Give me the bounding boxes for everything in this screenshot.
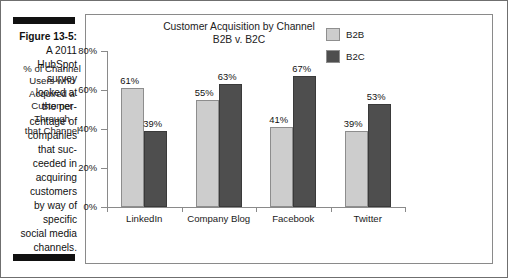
- caption-line: social media: [3, 227, 77, 241]
- bar-value-label: 53%: [367, 91, 386, 102]
- y-axis-tick-label: 0%: [63, 201, 97, 212]
- x-axis-tick: [182, 207, 183, 212]
- bar-group: 55%63%: [196, 51, 242, 207]
- bar-value-label: 61%: [120, 75, 139, 86]
- legend-label: B2B: [346, 29, 364, 40]
- x-axis-category-label: Twitter: [322, 213, 414, 224]
- figure-page: Figure 13-5: A 2011HubSpotsurveylooked a…: [0, 0, 508, 278]
- caption-line: specific: [3, 213, 77, 227]
- plot-area: 61%39%55%63%41%67%39%53%: [107, 51, 405, 207]
- y-axis-tick: [101, 168, 107, 169]
- bar-group: 39%53%: [345, 51, 391, 207]
- bar-value-label: 41%: [269, 114, 288, 125]
- y-axis-tick-label: 60%: [63, 84, 97, 95]
- y-axis-tick-label: 20%: [63, 162, 97, 173]
- y-axis-tick-label: 40%: [63, 123, 97, 134]
- figure-number: Figure 13-5:: [19, 31, 77, 42]
- bar-b2b-facebook[interactable]: [270, 127, 293, 207]
- x-axis-tick: [331, 207, 332, 212]
- x-axis-tick: [405, 207, 406, 212]
- chart-title-block: Customer Acquisition by Channel B2B v. B…: [119, 20, 359, 46]
- caption-line: channels.: [3, 241, 77, 255]
- chart-title: Customer Acquisition by Channel: [119, 20, 359, 33]
- y-axis-tick: [101, 129, 107, 130]
- y-axis-tick-label: 80%: [63, 45, 97, 56]
- bar-b2c-facebook[interactable]: [293, 76, 316, 207]
- bar-value-label: 63%: [218, 71, 237, 82]
- bar-b2b-twitter[interactable]: [345, 131, 368, 207]
- figure-caption-column: Figure 13-5: A 2011HubSpotsurveylooked a…: [1, 1, 85, 277]
- bar-value-label: 39%: [344, 118, 363, 129]
- bar-b2c-linkedin[interactable]: [144, 131, 167, 207]
- legend-swatch-icon: [326, 28, 340, 41]
- y-axis-tick: [101, 90, 107, 91]
- bar-value-label: 39%: [143, 118, 162, 129]
- x-axis-tick: [256, 207, 257, 212]
- bar-b2c-company-blog[interactable]: [219, 84, 242, 207]
- x-axis-tick: [107, 207, 108, 212]
- bar-group: 61%39%: [121, 51, 167, 207]
- caption-rule-top: [13, 17, 75, 24]
- bar-b2c-twitter[interactable]: [368, 104, 391, 207]
- y-axis-title-line: Customer: [3, 100, 101, 112]
- bar-b2b-linkedin[interactable]: [121, 88, 144, 207]
- bar-value-label: 55%: [195, 87, 214, 98]
- caption-line: that suc-: [3, 143, 77, 157]
- bar-group: 41%67%: [270, 51, 316, 207]
- legend-item-b2b[interactable]: B2B: [326, 28, 365, 41]
- y-axis-tick: [101, 51, 107, 52]
- y-axis-title-line: % of Channel: [3, 63, 101, 75]
- bar-value-label: 67%: [292, 63, 311, 74]
- bar-b2b-company-blog[interactable]: [196, 100, 219, 207]
- chart-subtitle: B2B v. B2C: [119, 33, 359, 46]
- caption-line: customers: [3, 185, 77, 199]
- caption-line: acquiring: [3, 171, 77, 185]
